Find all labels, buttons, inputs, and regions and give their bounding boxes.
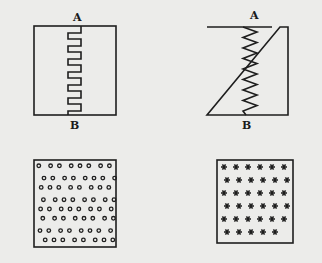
label-b-left: B	[70, 119, 79, 132]
square-wave-figure	[34, 26, 116, 115]
star-panel	[217, 160, 293, 243]
label-a-right: A	[250, 9, 259, 22]
illustration-canvas	[0, 0, 322, 263]
zigzag-figure	[207, 27, 288, 115]
label-a-left: A	[73, 11, 82, 24]
label-b-right: B	[242, 119, 251, 132]
circle-panel	[34, 160, 116, 247]
